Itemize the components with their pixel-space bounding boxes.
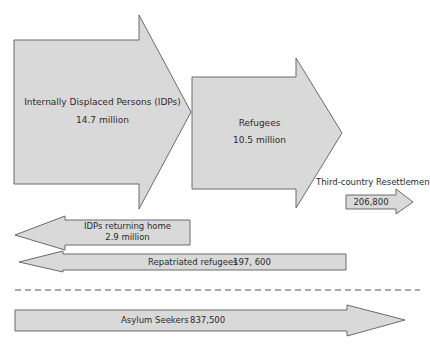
asylum-label: Asylum Seekers (121, 315, 189, 326)
resettlement-label: Third-country Resettlement (316, 177, 428, 188)
refugees-label: Refugees (192, 118, 327, 129)
idps-label: Internally Displaced Persons (IDPs) (14, 97, 191, 108)
resettlement-value: 206,800 (346, 197, 396, 208)
idps-returning-label: IDPs returning home (65, 221, 190, 232)
idps-returning-value: 2.9 million (65, 232, 190, 243)
repatriated-value: 197, 600 (233, 257, 271, 268)
idps-value: 14.7 million (14, 115, 191, 126)
asylum-value: 837,500 (190, 315, 225, 326)
idps-arrow (14, 15, 191, 209)
repatriated-label: Repatriated refugees (148, 257, 238, 268)
flow-diagram (0, 0, 430, 347)
refugees-value: 10.5 million (192, 135, 327, 146)
